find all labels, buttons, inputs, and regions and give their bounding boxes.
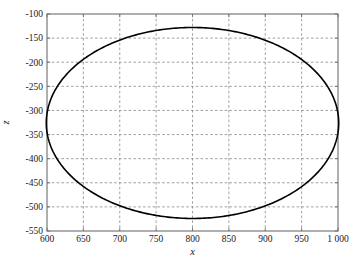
x-tick-label: 750 — [149, 234, 164, 244]
chart-plot: 6006507007508008509009501 000 -550-500-4… — [0, 0, 359, 270]
y-tick-label: -550 — [26, 226, 44, 236]
y-tick-label: -350 — [26, 130, 44, 140]
y-tick-label: -200 — [26, 58, 44, 68]
y-tick-label: -150 — [26, 33, 44, 43]
x-tick-label: 900 — [258, 234, 273, 244]
y-tick-label: -450 — [26, 178, 44, 188]
y-tick-label: -300 — [26, 106, 44, 116]
y-tick-label: -100 — [26, 9, 44, 19]
x-tick-label: 800 — [185, 234, 200, 244]
x-axis-label: x — [189, 246, 195, 257]
x-tick-label: 650 — [76, 234, 91, 244]
y-tick-label: -400 — [26, 154, 44, 164]
plot-background — [0, 0, 359, 270]
y-axis-label: z — [0, 120, 11, 125]
y-tick-label: -500 — [26, 202, 44, 212]
figure-container: 6006507007508008509009501 000 -550-500-4… — [0, 0, 359, 270]
y-tick-label: -250 — [26, 82, 44, 92]
x-tick-label: 1 000 — [327, 234, 349, 244]
x-tick-labels: 6006507007508008509009501 000 — [40, 234, 349, 244]
x-tick-label: 850 — [222, 234, 237, 244]
x-tick-label: 950 — [295, 234, 310, 244]
x-tick-label: 700 — [113, 234, 128, 244]
